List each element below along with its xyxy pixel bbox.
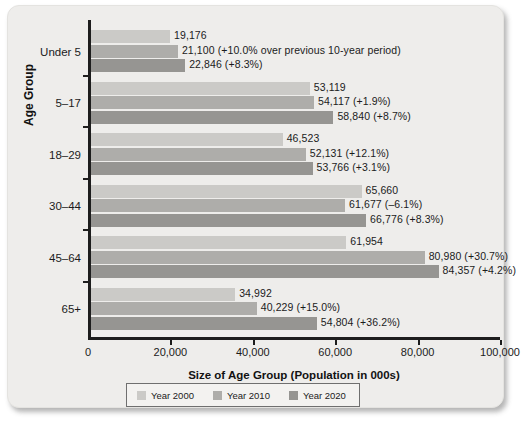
bar: 22,846 (+8.3%) xyxy=(91,59,185,72)
y-axis-tick xyxy=(83,281,89,283)
legend-label: Year 2000 xyxy=(151,390,194,401)
legend-label: Year 2020 xyxy=(303,390,346,401)
bar: 19,176 xyxy=(91,30,170,43)
bar-value-label: 66,776 (+8.3%) xyxy=(366,212,444,227)
bar-value-label: 19,176 xyxy=(170,28,207,43)
chart-page: Age Group Under 519,17621,100 (+10.0% ov… xyxy=(0,0,522,421)
y-axis-title: Age Group xyxy=(22,64,36,126)
chart-card: Age Group Under 519,17621,100 (+10.0% ov… xyxy=(7,5,504,408)
x-axis-tick-label: 60,000 xyxy=(318,346,352,358)
bar-value-label: 53,766 (+3.1%) xyxy=(313,160,391,175)
y-axis-tick xyxy=(83,229,89,231)
bar: 54,117 (+1.9%) xyxy=(91,96,314,109)
bar-value-label: 21,100 (+10.0% over previous 10-year per… xyxy=(178,43,401,58)
category-label: 45–64 xyxy=(49,251,81,265)
bar-value-label: 22,846 (+8.3%) xyxy=(185,57,263,72)
x-axis-tick xyxy=(500,340,502,345)
bar: 58,840 (+8.7%) xyxy=(91,111,333,124)
legend-swatch-icon xyxy=(213,391,222,400)
x-axis-tick-label: 100,000 xyxy=(480,346,520,358)
x-axis-tick-label: 40,000 xyxy=(236,346,270,358)
bar-value-label: 61,677 (–6.1%) xyxy=(345,197,422,212)
x-axis-line xyxy=(88,337,500,340)
category-label: 5–17 xyxy=(55,96,81,110)
x-axis-title: Size of Age Group (Population in 000s) xyxy=(88,369,500,381)
category-label: 65+ xyxy=(61,302,81,316)
category-label: Under 5 xyxy=(40,45,81,59)
bar: 52,131 (+12.1%) xyxy=(91,148,306,161)
legend-item-year-2010: Year 2010 xyxy=(213,390,270,401)
category-label: 30–44 xyxy=(49,199,81,213)
bar-value-label: 84,357 (+4.2%) xyxy=(439,263,517,278)
bar-value-label: 61,954 xyxy=(346,234,383,249)
legend-swatch-icon xyxy=(289,391,298,400)
bar: 84,357 (+4.2%) xyxy=(91,265,439,278)
y-axis-tick xyxy=(83,126,89,128)
bar: 46,523 xyxy=(91,133,283,146)
category-label: 18–29 xyxy=(49,148,81,162)
legend: Year 2000 Year 2010 Year 2020 xyxy=(126,383,360,407)
x-axis-tick xyxy=(170,340,172,345)
bar: 54,804 (+36.2%) xyxy=(91,317,317,330)
bar-value-label: 80,980 (+30.7%) xyxy=(425,249,508,264)
bar-value-label: 54,117 (+1.9%) xyxy=(314,94,391,109)
bar: 66,776 (+8.3%) xyxy=(91,214,366,227)
bar: 53,766 (+3.1%) xyxy=(91,162,313,175)
bar: 80,980 (+30.7%) xyxy=(91,251,425,264)
x-axis-tick xyxy=(335,340,337,345)
x-axis-tick xyxy=(418,340,420,345)
bar: 61,677 (–6.1%) xyxy=(91,199,345,212)
legend-item-year-2020: Year 2020 xyxy=(289,390,346,401)
legend-label: Year 2010 xyxy=(227,390,270,401)
plot-area: Under 519,17621,100 (+10.0% over previou… xyxy=(88,20,508,340)
x-axis-tick-label: 80,000 xyxy=(401,346,435,358)
y-axis-tick xyxy=(83,75,89,77)
bar-value-label: 65,660 xyxy=(362,183,399,198)
bar-value-label: 52,131 (+12.1%) xyxy=(306,146,389,161)
bar: 53,119 xyxy=(91,82,310,95)
legend-item-year-2000: Year 2000 xyxy=(137,390,194,401)
bar-value-label: 53,119 xyxy=(310,80,346,95)
y-axis-tick xyxy=(83,178,89,180)
bar: 65,660 xyxy=(91,185,362,198)
bar: 40,229 (+15.0%) xyxy=(91,302,257,315)
bar-value-label: 46,523 xyxy=(283,131,320,146)
bar: 21,100 (+10.0% over previous 10-year per… xyxy=(91,45,178,58)
bar-value-label: 34,992 xyxy=(235,286,272,301)
legend-swatch-icon xyxy=(137,391,146,400)
bar-value-label: 54,804 (+36.2%) xyxy=(317,315,400,330)
x-axis-tick xyxy=(253,340,255,345)
x-axis-tick-label: 0 xyxy=(85,346,91,358)
x-axis-tick-label: 20,000 xyxy=(154,346,188,358)
bar: 34,992 xyxy=(91,288,235,301)
bar: 61,954 xyxy=(91,236,346,249)
bar-value-label: 40,229 (+15.0%) xyxy=(257,300,340,315)
bar-value-label: 58,840 (+8.7%) xyxy=(333,109,411,124)
